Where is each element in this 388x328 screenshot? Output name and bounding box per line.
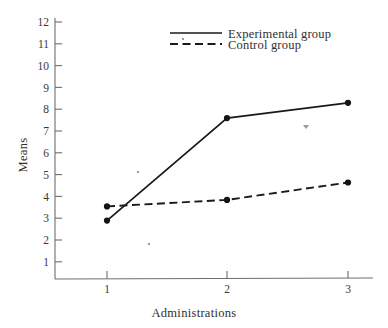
- control-group-point-1: [104, 203, 110, 209]
- x-tick-label-1: 1: [104, 283, 110, 295]
- x-tick-label-2: 2: [224, 283, 230, 295]
- line-chart-canvas: 12 11 10 9 8 7 6 5 4 3 2 1 1 2 3 Adminis…: [0, 0, 388, 328]
- y-tick-group: [55, 22, 62, 262]
- experimental-group-point-1: [104, 218, 110, 224]
- y-tick-label-7: 7: [43, 125, 49, 137]
- y-axis-title: Means: [16, 138, 30, 173]
- y-tick-label-6: 6: [43, 147, 49, 159]
- y-tick-label-12: 12: [38, 16, 50, 28]
- series-experimental-group: [104, 100, 351, 224]
- scan-speck-4: [148, 243, 150, 245]
- scan-speck-2: [137, 171, 139, 173]
- y-tick-label-8: 8: [43, 103, 49, 115]
- series-control-group: [104, 179, 351, 209]
- scan-speck-group: [137, 38, 309, 245]
- y-tick-label-5: 5: [43, 169, 49, 181]
- x-tick-label-3: 3: [345, 283, 351, 295]
- legend-label-control-group: Control group: [228, 38, 301, 52]
- x-axis-title: Administrations: [151, 306, 236, 320]
- x-axis-line: [55, 278, 373, 279]
- y-tick-label-9: 9: [43, 82, 49, 94]
- control-group-point-2: [224, 197, 230, 203]
- experimental-group-point-3: [345, 100, 351, 106]
- control-group-point-3: [345, 179, 351, 185]
- y-tick-label-4: 4: [43, 191, 49, 203]
- x-tick-labels: 1 2 3: [104, 283, 351, 295]
- axis-group: [55, 18, 373, 279]
- experimental-group-point-2: [224, 115, 230, 121]
- y-tick-label-3: 3: [43, 212, 49, 224]
- scan-speck-3: [182, 38, 184, 40]
- x-tick-group: [107, 271, 348, 279]
- y-tick-label-1: 1: [43, 256, 49, 268]
- y-tick-labels: 12 11 10 9 8 7 6 5 4 3 2 1: [38, 16, 50, 268]
- y-tick-label-10: 10: [38, 60, 50, 72]
- y-tick-label-11: 11: [38, 38, 49, 50]
- chart-figure: 12 11 10 9 8 7 6 5 4 3 2 1 1 2 3 Adminis…: [0, 0, 388, 328]
- chart-legend: Experimental group Control group: [170, 27, 331, 52]
- scan-speck-1: [303, 125, 309, 129]
- y-tick-label-2: 2: [43, 234, 49, 246]
